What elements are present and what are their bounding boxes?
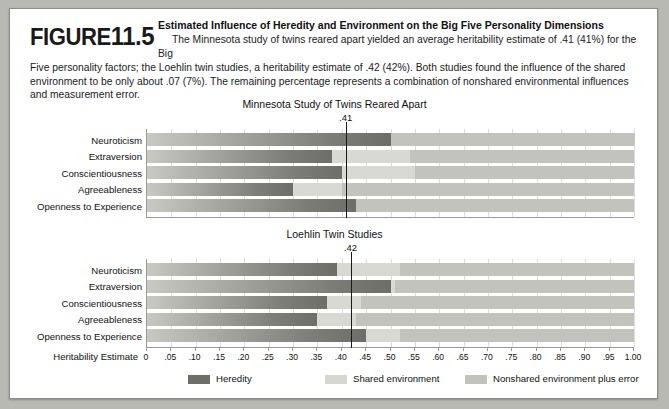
category-label: Neuroticism: [10, 265, 142, 276]
legend-swatch-nonshared: [465, 375, 487, 384]
bar-segment-nonshared: [395, 280, 634, 293]
bar-row: [147, 329, 634, 342]
bar-row: [147, 280, 634, 293]
bar-segment-shared: [337, 263, 400, 276]
category-label: Openness to Experience: [10, 201, 142, 212]
category-label: Openness to Experience: [10, 331, 142, 342]
category-label: Agreeableness: [10, 314, 142, 325]
figure-caption-rest-wrap: Five personality factors; the Loehlin tw…: [30, 61, 641, 102]
legend-label-nonshared: Nonshared environment plus error: [493, 373, 639, 384]
chart-title-1: Minnesota Study of Twins Reared Apart: [10, 98, 659, 110]
figure-number: 11.5: [111, 21, 154, 51]
bar-segment-shared: [327, 296, 361, 309]
legend-swatch-heredity: [188, 375, 210, 384]
axis-tick-mark: [268, 348, 269, 351]
category-label: Conscientiousness: [10, 298, 142, 309]
bar-segment-shared: [332, 150, 410, 163]
bar-segment-shared: [293, 183, 342, 196]
bar-segment-heredity: [147, 296, 327, 309]
bar-segment-heredity: [147, 199, 356, 212]
bar-row: [147, 150, 634, 163]
category-label: Conscientiousness: [10, 168, 142, 179]
axis-tick-mark: [487, 348, 488, 351]
plot-area-1: [146, 129, 634, 218]
bar-segment-heredity: [147, 150, 332, 163]
bar-segment-shared: [342, 166, 415, 179]
bar-segment-nonshared: [356, 199, 634, 212]
bar-row: [147, 263, 634, 276]
legend-label-shared: Shared environment: [353, 373, 439, 384]
bar-segment-heredity: [147, 280, 391, 293]
axis-tick-mark: [219, 348, 220, 351]
axis-tick-mark: [195, 348, 196, 351]
mean-reference-line-1: [346, 122, 347, 218]
axis-tick-mark: [146, 348, 147, 351]
figure-label: FIGURE11.5: [30, 21, 154, 52]
axis-tick-mark: [341, 348, 342, 351]
axis-tick-mark: [633, 348, 634, 351]
figure-caption-lead: The Minnesota study of twins reared apar…: [158, 33, 641, 60]
figure-header: FIGURE11.5 Estimated Influence of Heredi…: [30, 19, 641, 102]
gridline: [634, 259, 635, 347]
axis-tick-label: 1.00: [617, 352, 649, 362]
bar-row: [147, 133, 634, 146]
axis-tick-mark: [243, 348, 244, 351]
bar-segment-heredity: [147, 313, 317, 326]
axis-tick-mark: [560, 348, 561, 351]
mean-reference-line-2: [351, 252, 352, 348]
figure-headtext: Estimated Influence of Heredity and Envi…: [158, 19, 641, 60]
x-axis-label: Heritability Estimate: [10, 351, 138, 362]
axis-tick-mark: [536, 348, 537, 351]
plot-area-2: [146, 259, 634, 348]
category-label: Extraversion: [10, 151, 142, 162]
legend-swatch-shared: [325, 375, 347, 384]
axis-tick-mark: [170, 348, 171, 351]
chart-title-2: Loehlin Twin Studies: [10, 228, 659, 240]
legend-label-heredity: Heredity: [216, 373, 252, 384]
figure-label-word: FIGURE: [30, 23, 111, 50]
bar-segment-nonshared: [400, 329, 634, 342]
axis-tick-mark: [584, 348, 585, 351]
axis-tick-mark: [511, 348, 512, 351]
bar-row: [147, 296, 634, 309]
figure-card: FIGURE11.5 Estimated Influence of Heredi…: [9, 8, 658, 399]
bar-segment-heredity: [147, 166, 342, 179]
bar-segment-heredity: [147, 263, 337, 276]
bar-segment-nonshared: [415, 166, 634, 179]
bar-segment-nonshared: [391, 133, 635, 146]
axis-tick-mark: [609, 348, 610, 351]
category-label: Neuroticism: [10, 135, 142, 146]
axis-tick-mark: [390, 348, 391, 351]
axis-tick-mark: [365, 348, 366, 351]
bar-segment-heredity: [147, 133, 391, 146]
bar-row: [147, 199, 634, 212]
axis-tick-mark: [414, 348, 415, 351]
bar-row: [147, 166, 634, 179]
chart-legend: HeredityShared environmentNonshared envi…: [10, 373, 657, 389]
bar-row: [147, 313, 634, 326]
bar-segment-heredity: [147, 183, 293, 196]
axis-tick-mark: [292, 348, 293, 351]
bar-segment-nonshared: [410, 150, 634, 163]
bar-row: [147, 183, 634, 196]
figure-caption-rest: Five personality factors; the Loehlin tw…: [30, 61, 641, 102]
bar-segment-shared: [366, 329, 400, 342]
category-label: Agreeableness: [10, 184, 142, 195]
bar-segment-nonshared: [400, 263, 634, 276]
bar-segment-nonshared: [361, 296, 634, 309]
axis-tick-mark: [316, 348, 317, 351]
category-label: Extraversion: [10, 281, 142, 292]
bar-segment-nonshared: [342, 183, 634, 196]
bar-segment-nonshared: [356, 313, 634, 326]
axis-tick-mark: [438, 348, 439, 351]
figure-title: Estimated Influence of Heredity and Envi…: [158, 19, 641, 32]
bar-segment-heredity: [147, 329, 366, 342]
axis-tick-mark: [463, 348, 464, 351]
